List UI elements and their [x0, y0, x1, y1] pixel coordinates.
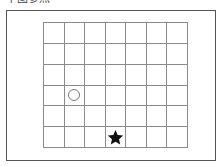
grid-cell: [147, 86, 168, 107]
grid-cell: [85, 65, 106, 86]
grid-cell: [147, 23, 168, 44]
caption-text: 下图参照: [6, 0, 50, 5]
grid-cell: [147, 65, 168, 86]
grid-cell: [147, 44, 168, 65]
grid-cell: [147, 106, 168, 127]
grid-cell: [65, 106, 86, 127]
grid-cell: [167, 65, 188, 86]
grid-cell: [106, 23, 127, 44]
grid-cell: [65, 65, 86, 86]
grid-cell: [106, 86, 127, 107]
grid-cell: [85, 127, 106, 148]
grid-cell: [126, 127, 147, 148]
grid-cell: [106, 44, 127, 65]
grid-cell: [85, 106, 106, 127]
grid-board: [43, 22, 188, 148]
grid-cell: [85, 86, 106, 107]
grid-cell: [167, 44, 188, 65]
grid-cell: [126, 106, 147, 127]
grid-cell: [167, 106, 188, 127]
grid-cell: [147, 127, 168, 148]
star-icon: [107, 129, 124, 146]
grid-cell: [85, 44, 106, 65]
grid-cell: [44, 86, 65, 107]
grid-cell: [126, 86, 147, 107]
grid-cell: [65, 44, 86, 65]
grid-cell: [44, 65, 65, 86]
grid-cell: [167, 23, 188, 44]
grid-cell: [44, 127, 65, 148]
grid-cell: [126, 65, 147, 86]
grid-cell: [106, 127, 127, 148]
grid-cell: [106, 106, 127, 127]
grid-cell: [65, 23, 86, 44]
grid-cell: [65, 127, 86, 148]
circle-icon: [68, 89, 80, 101]
grid-cell: [126, 44, 147, 65]
grid-cell: [167, 127, 188, 148]
grid-cell: [44, 44, 65, 65]
grid-cell: [85, 23, 106, 44]
grid-cell: [106, 65, 127, 86]
grid-cell: [126, 23, 147, 44]
grid-cell: [65, 86, 86, 107]
grid-cell: [167, 86, 188, 107]
grid-cell: [44, 23, 65, 44]
grid-cell: [44, 106, 65, 127]
